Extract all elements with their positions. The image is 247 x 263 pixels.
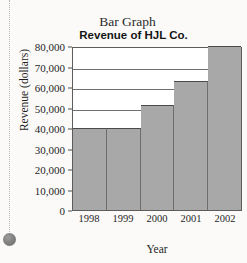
bar — [73, 128, 107, 210]
x-axis-tick-label: 2000 — [140, 213, 174, 229]
x-axis-label: Year — [72, 243, 242, 255]
x-axis-tick-label: 1999 — [106, 213, 140, 229]
x-axis-tick-label: 2001 — [174, 213, 208, 229]
figure-label: Bar Graph — [0, 14, 247, 30]
y-axis-tick-label: 80,000 — [0, 41, 65, 53]
bar-chart-figure: Bar Graph Revenue of HJL Co. Revenue (do… — [0, 0, 247, 263]
bar — [141, 105, 175, 210]
x-axis-tick-group: 19981999200020012002 — [72, 213, 242, 229]
bar — [174, 81, 208, 210]
bar — [107, 128, 141, 210]
y-axis-tick-label: 10,000 — [0, 185, 65, 197]
bar-series — [73, 48, 241, 210]
chart-title: Revenue of HJL Co. — [0, 29, 247, 41]
y-axis-tick-label: 60,000 — [0, 82, 65, 94]
y-axis-tick-label: 50,000 — [0, 103, 65, 115]
bar — [208, 46, 241, 210]
x-axis-tick-label: 1998 — [72, 213, 106, 229]
y-axis-tick-label: 30,000 — [0, 144, 65, 156]
x-axis-tick-label: 2002 — [208, 213, 242, 229]
y-axis-tick-group: 80,00070,00060,00050,00040,00030,00020,0… — [0, 47, 72, 211]
y-axis-tick-label: 20,000 — [0, 164, 65, 176]
plot-area — [72, 47, 242, 211]
y-axis-tick-label: 70,000 — [0, 62, 65, 74]
y-axis-tick-label: 0 — [0, 205, 65, 217]
y-axis-tick-label: 40,000 — [0, 123, 65, 135]
